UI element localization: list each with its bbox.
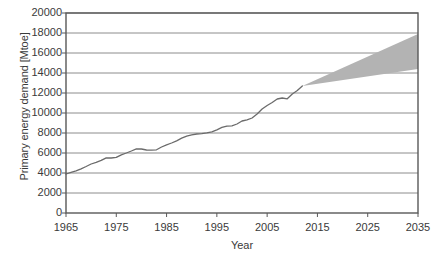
x-axis-title: Year bbox=[66, 239, 418, 251]
plot-area bbox=[0, 0, 437, 259]
chart-figure: Primary energy demand [Mtoe] 02000400060… bbox=[0, 0, 437, 259]
